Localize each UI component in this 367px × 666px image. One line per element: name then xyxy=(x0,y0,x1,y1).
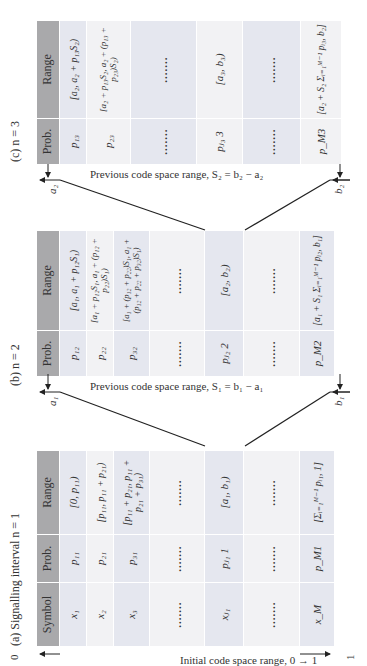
prob-cell: p₁₂ xyxy=(60,330,87,376)
range-cell: [a₁ + S₁ Σᵢ₌₁ᴹ⁻¹ pᵢ₂, b₁] xyxy=(300,230,335,330)
symbol-cell: xⱼ₁ xyxy=(205,582,244,646)
prob-cell: ....... xyxy=(150,330,205,376)
prob-cell: p₂₃ xyxy=(87,118,131,164)
range-header: Range xyxy=(37,230,60,330)
range-cell: [p₁₁ + p₂₁, p₁₁ + p₂₁ + p₃₁) xyxy=(114,450,150,534)
prob-header: Prob. xyxy=(37,534,60,582)
panel-c: (c) n = 3 Prob. p₁₃ p₂₃ ....... pⱼ₃ 3 ..… xyxy=(0,0,367,214)
symbol-header: Symbol xyxy=(37,582,60,646)
prob-column: Prob. p₁₃ p₂₃ ....... pⱼ₃ 3 ....... p_M3 xyxy=(37,118,342,164)
range-cell: [0, p₁₁) xyxy=(60,450,87,534)
prob-cell: p₁₃ xyxy=(60,118,87,164)
prob-cell: ....... xyxy=(244,534,300,582)
range-column: Range [0, p₁₁) [p₁₁, p₁₁ + p₂₁) [p₁₁ + p… xyxy=(37,450,335,534)
panel-c-table: Prob. p₁₃ p₂₃ ....... pⱼ₃ 3 ....... p_M3… xyxy=(37,20,342,164)
axis-end-label: 1 xyxy=(344,655,356,661)
range-column: Range [a₁, a₁ + p₁₂S₁) [a₁ + p₁₂S₁, a₁ +… xyxy=(37,230,335,330)
prob-cell: ....... xyxy=(244,330,300,376)
prob-cell: p₃₁ xyxy=(114,534,150,582)
symbol-cell: x_M xyxy=(300,582,335,646)
range-cell: ....... xyxy=(243,20,301,118)
range-header: Range xyxy=(37,450,60,534)
prob-column: Prob. p₁₁ p₂₁ p₃₁ ....... pⱼ₁ 1 ....... … xyxy=(37,534,335,582)
symbol-column: Symbol x₁ x₂ x₃ ....... xⱼ₁ ....... x_M xyxy=(37,582,335,646)
symbol-cell: ....... xyxy=(150,582,205,646)
symbol-cell: x₂ xyxy=(87,582,114,646)
panel-c-caption: (c) n = 3 xyxy=(8,121,23,162)
range-cell: [a₁, b₁) xyxy=(205,450,244,534)
prob-cell: ....... xyxy=(243,118,301,164)
symbol-cell: x₃ xyxy=(114,582,150,646)
prob-header: Prob. xyxy=(37,118,60,164)
panel-b-table: Prob. p₁₂ p₂₂ p₃₂ ....... pⱼ₂ 2 ....... … xyxy=(37,230,335,376)
prob-cell: p₁₁ xyxy=(60,534,87,582)
prob-cell: p_M3 xyxy=(301,118,342,164)
prob-column: Prob. p₁₂ p₂₂ p₃₂ ....... pⱼ₂ 2 ....... … xyxy=(37,330,335,376)
prob-cell: p_M1 xyxy=(300,534,335,582)
prob-cell: pⱼ₂ 2 xyxy=(205,330,244,376)
range-cell: ....... xyxy=(150,450,205,534)
range-header: Range xyxy=(37,20,60,118)
range-cell: [a₃, b₃) xyxy=(197,20,243,118)
axis-start-label: 0 xyxy=(8,655,20,661)
range-cell: ....... xyxy=(244,450,300,534)
axis-end-label: b₁ xyxy=(332,397,344,406)
prob-cell: pⱼ₁ 1 xyxy=(205,534,244,582)
range-cell: [a₂ + p₁₃S₂, a₂ + (p₁₃ + p₂₃)S₂) xyxy=(87,20,131,118)
prob-cell: ....... xyxy=(150,534,205,582)
range-cell: ....... xyxy=(131,20,197,118)
prob-cell: p₂₂ xyxy=(87,330,114,376)
panel-a-axis-label: Initial code space range, 0 → 1 xyxy=(180,654,317,666)
range-cell: [p₁₁, p₁₁ + p₂₁) xyxy=(87,450,114,534)
symbol-cell: ....... xyxy=(244,582,300,646)
range-cell: [a₂ + S₂ Σᵢ₌₁ᴹ⁻¹ pᵢ₃, b₂] xyxy=(301,20,342,118)
prob-cell: p₂₁ xyxy=(87,534,114,582)
panel-a-caption: (a) Signalling interval n = 1 xyxy=(8,513,23,646)
prob-cell: ....... xyxy=(131,118,197,164)
range-cell: [a₂, a₂ + p₁₃S₂) xyxy=(60,20,87,118)
panel-b-caption: (b) n = 2 xyxy=(8,344,23,386)
prob-cell: p_M2 xyxy=(300,330,335,376)
range-cell: ....... xyxy=(244,230,300,330)
range-cell: ....... xyxy=(150,230,205,330)
range-column: Range [a₂, a₂ + p₁₃S₂) [a₂ + p₁₃S₂, a₂ +… xyxy=(37,20,342,118)
range-cell: [a₁ + (p₁₂ + p₂₂)S₁, a₁ + (p₁₂ + p₂₂ + p… xyxy=(114,230,150,330)
panel-b: (b) n = 2 Prob. p₁₂ p₂₂ p₃₂ ....... pⱼ₂ … xyxy=(0,226,367,436)
axis-start-label: a₂ xyxy=(46,185,58,194)
range-cell: [Σᵢ₌₁ᴹ⁻¹ pᵢ₁, 1] xyxy=(300,450,335,534)
range-cell: [a₁ + p₁₂S₁, a₁ + (p₁₂ + p₂₂)S₁) xyxy=(87,230,114,330)
axis-end-label: b₂ xyxy=(332,185,344,194)
prob-cell: pⱼ₃ 3 xyxy=(197,118,243,164)
panel-a-table: Symbol x₁ x₂ x₃ ....... xⱼ₁ ....... x_M … xyxy=(37,450,335,646)
prob-header: Prob. xyxy=(37,330,60,376)
symbol-cell: x₁ xyxy=(60,582,87,646)
panel-c-axis-label: Previous code space range, S₂ = b₂ − a₂ xyxy=(90,168,263,180)
range-cell: [a₂, b₂) xyxy=(205,230,244,330)
axis-start-label: a₁ xyxy=(46,397,58,406)
range-cell: [a₁, a₁ + p₁₂S₁) xyxy=(60,230,87,330)
prob-cell: p₃₂ xyxy=(114,330,150,376)
panel-a: (a) Signalling interval n = 1 Symbol x₁ … xyxy=(0,446,367,646)
panel-b-axis-label: Previous code space range, S₁ = b₁ − a₁ xyxy=(90,380,263,392)
